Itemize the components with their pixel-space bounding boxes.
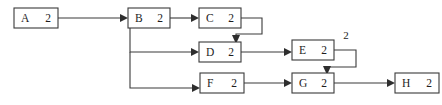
arrowhead-icon (191, 48, 199, 56)
arrowhead-icon (192, 84, 200, 92)
node-count: 2 (426, 77, 432, 89)
node-h[interactable]: H 2 (395, 73, 439, 93)
arrowhead-icon (284, 79, 292, 87)
node-count: 2 (231, 77, 237, 89)
edge-d-to-e (241, 48, 292, 56)
edge-label-e-loop: 2 (343, 29, 349, 41)
node-count: 2 (157, 12, 163, 24)
node-letter: F (207, 77, 213, 89)
node-e[interactable]: E 2 (292, 40, 334, 60)
edge-label-layer: 2 (343, 29, 349, 41)
node-count: 2 (321, 44, 327, 56)
node-letter: E (299, 44, 306, 56)
node-letter: A (21, 12, 30, 24)
arrowhead-icon (120, 14, 128, 22)
edge-b-to-c (170, 14, 199, 22)
node-count: 2 (228, 46, 234, 58)
node-f[interactable]: F 2 (200, 73, 244, 93)
edge-b-branch-to-d (130, 28, 199, 56)
node-letter: B (135, 12, 143, 24)
edge-g-to-h (334, 79, 395, 87)
edge-path (130, 52, 196, 88)
node-count: 2 (45, 12, 51, 24)
node-d[interactable]: D 2 (199, 42, 241, 62)
node-letter: H (402, 77, 410, 89)
node-g[interactable]: G 2 (292, 73, 334, 93)
edge-path (130, 28, 195, 52)
node-b[interactable]: B 2 (128, 8, 170, 28)
node-count: 2 (321, 77, 327, 89)
arrowhead-icon (284, 48, 292, 56)
node-letter: D (206, 46, 214, 58)
edge-a-to-b (58, 14, 128, 22)
node-a[interactable]: A 2 (14, 8, 58, 28)
graph-svg: 2 A 2 B 2 C 2 D 2 (0, 0, 442, 105)
node-letter: C (206, 12, 214, 24)
arrowhead-icon (191, 14, 199, 22)
node-letter: G (299, 77, 307, 89)
node-layer: A 2 B 2 C 2 D 2 E 2 (14, 8, 439, 93)
edge-b-branch-to-f (130, 52, 200, 92)
diagram-canvas: 2 A 2 B 2 C 2 D 2 (0, 0, 442, 105)
node-c[interactable]: C 2 (199, 8, 241, 28)
arrowhead-icon (387, 79, 395, 87)
edge-f-to-g (244, 79, 292, 87)
node-count: 2 (228, 12, 234, 24)
